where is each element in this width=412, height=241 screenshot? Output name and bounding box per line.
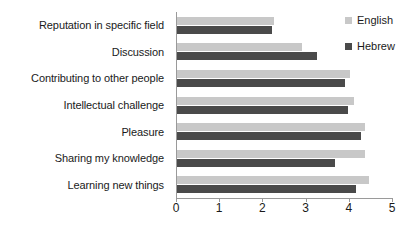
bar-group bbox=[177, 145, 392, 172]
x-axis-tick-labels: 012345 bbox=[176, 201, 392, 219]
bar-hebrew bbox=[177, 159, 335, 167]
chart-legend: English Hebrew bbox=[345, 14, 409, 66]
x-axis-tick-label: 0 bbox=[173, 201, 180, 215]
legend-item-hebrew: Hebrew bbox=[345, 40, 409, 52]
bar-hebrew bbox=[177, 79, 345, 87]
x-axis-tick-label: 5 bbox=[389, 201, 396, 215]
x-axis-tick-label: 3 bbox=[302, 201, 309, 215]
bar-hebrew bbox=[177, 52, 317, 60]
bar-group bbox=[177, 65, 392, 92]
category-label: Discussion bbox=[0, 39, 170, 66]
category-label: Learning new things bbox=[0, 171, 170, 198]
x-axis-tick-label: 1 bbox=[216, 201, 223, 215]
bar-english bbox=[177, 97, 354, 105]
legend-label-english: English bbox=[357, 14, 393, 26]
category-label: Reputation in specific field bbox=[0, 12, 170, 39]
bar-english bbox=[177, 70, 350, 78]
bar-english bbox=[177, 150, 365, 158]
bar-group bbox=[177, 171, 392, 198]
bar-group bbox=[177, 92, 392, 119]
legend-item-english: English bbox=[345, 14, 409, 26]
x-axis-line bbox=[176, 198, 393, 199]
category-label: Pleasure bbox=[0, 118, 170, 145]
bar-english bbox=[177, 17, 274, 25]
category-axis-labels: Reputation in specific field Discussion … bbox=[0, 12, 170, 198]
category-label: Intellectual challenge bbox=[0, 92, 170, 119]
x-axis-tick-label: 2 bbox=[259, 201, 266, 215]
bar-hebrew bbox=[177, 185, 356, 193]
bar-hebrew bbox=[177, 106, 348, 114]
bar-english bbox=[177, 123, 365, 131]
bar-group bbox=[177, 118, 392, 145]
category-label: Contributing to other people bbox=[0, 65, 170, 92]
legend-label-hebrew: Hebrew bbox=[357, 40, 395, 52]
x-axis-tick-label: 4 bbox=[345, 201, 352, 215]
legend-swatch-english-icon bbox=[345, 17, 352, 24]
bar-chart: Reputation in specific field Discussion … bbox=[0, 0, 412, 241]
bar-hebrew bbox=[177, 132, 361, 140]
legend-swatch-hebrew-icon bbox=[345, 43, 352, 50]
bar-hebrew bbox=[177, 26, 272, 34]
bar-english bbox=[177, 43, 302, 51]
bar-english bbox=[177, 176, 369, 184]
category-label: Sharing my knowledge bbox=[0, 145, 170, 172]
